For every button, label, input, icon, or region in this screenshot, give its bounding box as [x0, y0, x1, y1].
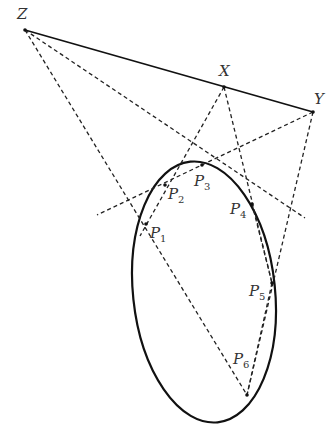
line-z-p3-p4	[25, 30, 305, 218]
point-p4	[250, 202, 254, 206]
label-p6: P6	[232, 350, 249, 370]
line-y-p3-p2	[97, 112, 313, 215]
label-y: Y	[314, 90, 326, 108]
point-p6	[245, 393, 249, 397]
label-p5: P5	[248, 282, 265, 302]
point-y	[311, 110, 315, 114]
label-z: Z	[16, 5, 28, 23]
line-z-p1-p6	[25, 30, 247, 395]
label-p4: P4	[229, 200, 246, 220]
point-p2	[163, 183, 167, 187]
point-p5	[270, 281, 274, 285]
point-z	[23, 28, 27, 32]
point-p3	[200, 163, 204, 167]
hexagon-pascal-diagram: Z X Y P1 P2 P3 P4 P5 P6	[0, 0, 335, 434]
label-p2: P2	[167, 185, 184, 205]
label-p3: P3	[193, 172, 210, 192]
point-p1	[144, 222, 148, 226]
line-x-p2-p1	[140, 87, 224, 236]
label-p1: P1	[149, 224, 166, 244]
pascal-line	[25, 30, 313, 112]
point-x	[222, 85, 226, 89]
label-x: X	[218, 62, 231, 80]
